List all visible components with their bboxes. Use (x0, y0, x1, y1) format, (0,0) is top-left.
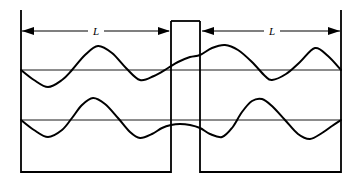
left-arrowhead-start-icon (22, 27, 34, 35)
wave-curves (21, 45, 341, 139)
upper-standing-wave-curve (21, 45, 341, 87)
left-arrowhead-end-icon (158, 27, 170, 35)
figure-canvas: L L (0, 0, 363, 182)
left-dimension-arrow: L (22, 25, 170, 37)
lower-standing-wave-curve (21, 98, 341, 139)
left-length-label: L (92, 25, 99, 37)
right-length-label: L (268, 25, 275, 37)
right-dimension-arrow: L (202, 25, 340, 37)
right-arrowhead-end-icon (328, 27, 340, 35)
physics-standing-wave-figure: L L (0, 0, 363, 182)
right-arrowhead-start-icon (202, 27, 214, 35)
